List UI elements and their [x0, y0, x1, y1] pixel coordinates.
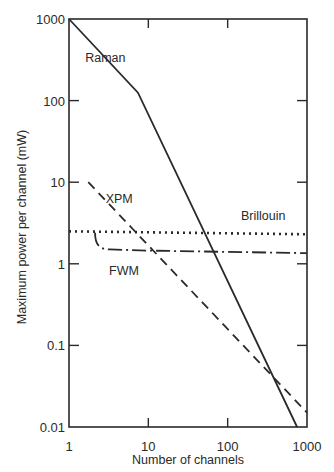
series-raman-label: Raman — [85, 51, 125, 65]
chart-svg: 11010010000.010.11101001000 RamanXPMBril… — [0, 0, 334, 472]
series-labels: RamanXPMBrillouinFWM — [85, 51, 285, 279]
y-tick-label: 100 — [43, 94, 65, 109]
series-xpm-label: XPM — [106, 192, 133, 206]
series-brillouin-line — [69, 231, 307, 234]
series-fwm-line — [95, 233, 307, 253]
series-brillouin-label: Brillouin — [241, 209, 286, 223]
x-tick-label: 1000 — [293, 439, 322, 454]
x-tick-label: 1 — [65, 439, 72, 454]
x-axis-title: Number of channels — [132, 453, 244, 467]
y-tick-label: 1 — [58, 257, 65, 272]
y-tick-label: 0.1 — [47, 338, 65, 353]
y-tick-label: 0.01 — [40, 420, 65, 435]
x-tick-label: 100 — [217, 439, 239, 454]
x-tick-label: 10 — [141, 439, 155, 454]
series-fwm-label: FWM — [109, 264, 139, 278]
y-tick-label: 10 — [51, 175, 65, 190]
y-tick-label: 1000 — [36, 12, 65, 27]
chart-container: 11010010000.010.11101001000 RamanXPMBril… — [0, 0, 334, 472]
y-axis-title: Maximum power per channel (mW) — [15, 130, 29, 325]
